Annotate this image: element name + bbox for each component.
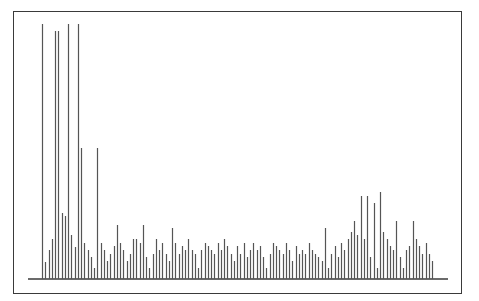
spectrum-chart (0, 0, 479, 301)
plot-area (0, 0, 479, 301)
bar-series (43, 24, 433, 279)
